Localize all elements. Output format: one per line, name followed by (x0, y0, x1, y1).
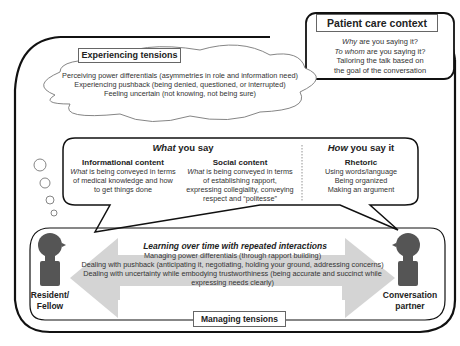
context-line: Tailoring the talk based on (306, 56, 454, 66)
informational-line: What is being conveyed in terms (63, 167, 183, 176)
context-line: Why are you saying it? (306, 37, 454, 47)
informational-heading: Informational content (63, 158, 183, 167)
managing-item: Dealing with pushback (anticipating it, … (70, 260, 395, 269)
rhetoric-line: Making an argument (304, 185, 418, 194)
context-line: To whom are you saying it? (306, 47, 454, 57)
thought-bubble (46, 196, 54, 204)
tension-item: Perceiving power differentials (asymmetr… (40, 71, 320, 80)
managing-tensions-title: Managing tensions (193, 311, 286, 327)
rhetoric-heading: Rhetoric (304, 158, 418, 167)
how-you-say-it-title: How you say it (304, 142, 418, 153)
thought-bubble (34, 159, 46, 171)
rhetoric: Rhetoric Using words/language Being orga… (304, 158, 418, 194)
experiencing-tensions-list: Perceiving power differentials (asymmetr… (40, 71, 320, 98)
managing-tensions-list: Managing power differentials (through ra… (70, 251, 395, 287)
resident-fellow-person-icon (38, 233, 66, 286)
context-line: the goal of the conversation (306, 66, 454, 76)
thought-bubble (40, 178, 50, 188)
social-heading: Social content (175, 158, 305, 167)
learning-over-time-title: Learning over time with repeated interac… (90, 241, 380, 251)
patient-care-context-title: Patient care context (316, 14, 438, 32)
experiencing-tensions-title: Experiencing tensions (78, 48, 181, 63)
social-content: Social content What is being conveyed in… (175, 158, 305, 203)
conversation-partner-label: Conversation partner (375, 290, 445, 311)
social-line: expressing collegiality, conveying (175, 185, 305, 194)
conversation-partner-person-icon (392, 233, 420, 286)
social-line: What is being conveyed in terms (175, 167, 305, 176)
patient-care-context-body: Why are you saying it? To whom are you s… (306, 37, 454, 75)
tension-item: Feeling uncertain (not knowing, not bein… (40, 89, 320, 98)
managing-item: Dealing with uncertainty while embodying… (70, 269, 395, 278)
tension-item: Experiencing pushback (being denied, que… (40, 80, 320, 89)
rhetoric-line: Being organized (304, 176, 418, 185)
resident-fellow-label: Resident/ Fellow (20, 290, 80, 311)
thought-bubble (51, 210, 57, 216)
social-line: of establishing rapport, (175, 176, 305, 185)
social-line: respect and “politesse” (175, 194, 305, 203)
managing-item: Managing power differentials (through ra… (70, 251, 395, 260)
rhetoric-line: Using words/language (304, 167, 418, 176)
informational-line: of medical knowledge and how (63, 176, 183, 185)
what-you-say-title: What you say (63, 142, 303, 153)
managing-item: expressing needs clearly) (70, 278, 395, 287)
informational-content: Informational content What is being conv… (63, 158, 183, 194)
informational-line: to get things done (63, 185, 183, 194)
